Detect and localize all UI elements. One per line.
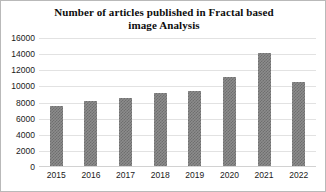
bar-2018: [154, 93, 167, 167]
y-axis-tick-label: 14000: [11, 49, 35, 59]
x-axis-tick-labels: 20152016201720182019202020212022: [39, 170, 316, 184]
y-axis-tick-label: 8000: [16, 98, 35, 108]
bar-chart-figure: Number of articles published in Fractal …: [0, 0, 326, 192]
chart-title: Number of articles published in Fractal …: [23, 6, 305, 32]
y-axis-tick-label: 10000: [11, 81, 35, 91]
y-axis-tick-label: 4000: [16, 130, 35, 140]
bar-2017: [119, 98, 132, 167]
bar-2019: [188, 91, 201, 167]
bar-2021: [258, 53, 271, 167]
x-axis-line: [39, 166, 316, 167]
bar-2020: [223, 77, 236, 167]
y-axis-tick-label: 6000: [16, 114, 35, 124]
y-axis-tick-labels: 0200040006000800010000120001400016000: [1, 32, 35, 173]
y-axis-tick-label: 16000: [11, 33, 35, 43]
chart-title-line-2: image Analysis: [128, 19, 199, 31]
bars-layer: [39, 38, 316, 167]
x-axis-tick-label: 2022: [279, 170, 319, 181]
plot-area: [39, 38, 316, 167]
y-axis-tick-label: 2000: [16, 146, 35, 156]
bar-2016: [84, 101, 97, 167]
bar-2015: [50, 106, 63, 167]
y-axis-tick-label: 12000: [11, 65, 35, 75]
bar-2022: [292, 82, 305, 167]
y-axis-tick-label: 0: [30, 162, 35, 172]
chart-title-line-1: Number of articles published in Fractal …: [54, 6, 273, 18]
